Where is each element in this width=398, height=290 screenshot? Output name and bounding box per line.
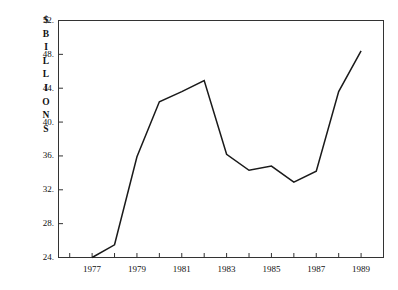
y-axis-tick-label: 24. <box>28 253 54 262</box>
chart-figure: $ B I L L I O N S 24.28.32.36.40.44.48.5… <box>0 0 398 290</box>
plot-frame <box>59 21 384 258</box>
y-axis-tick-label: 32. <box>28 185 54 194</box>
y-axis-tick-label: 52. <box>28 16 54 25</box>
x-axis-tick-label: 1983 <box>207 265 247 274</box>
y-axis-tick-label: 28. <box>28 219 54 228</box>
y-axis-tick-label: 48. <box>28 50 54 59</box>
y-axis-title-char: L <box>38 68 54 82</box>
x-axis-tick-label: 1987 <box>296 265 336 274</box>
plot-area <box>0 0 398 290</box>
y-axis-tick-label: 40. <box>28 118 54 127</box>
y-axis-tick-label: 44. <box>28 84 54 93</box>
y-axis-tick-label: 36. <box>28 151 54 160</box>
y-axis-title-char: O <box>38 96 54 110</box>
x-axis-tick-label: 1985 <box>251 265 291 274</box>
x-axis-tick-label: 1977 <box>72 265 112 274</box>
x-axis-tick-label: 1979 <box>117 265 157 274</box>
x-axis-tick-label: 1989 <box>341 265 381 274</box>
x-axis-tick-label: 1981 <box>162 265 202 274</box>
y-axis-title-char: B <box>38 28 54 42</box>
